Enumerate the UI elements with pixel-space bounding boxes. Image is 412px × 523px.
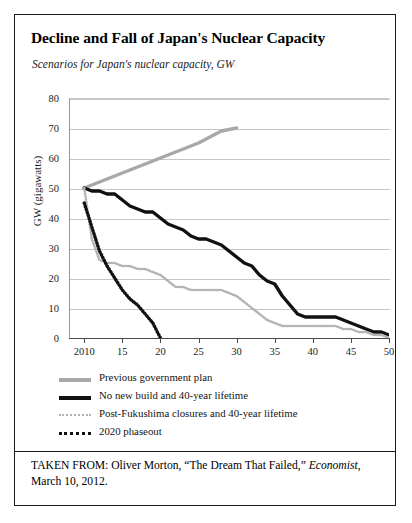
legend-item: Previous government plan [59, 371, 397, 389]
x-axis-tick-label: 35 [269, 346, 280, 357]
legend-swatch-previous-plan [59, 378, 91, 382]
x-axis-tick [122, 338, 123, 343]
x-axis-tick [84, 338, 85, 343]
legend-label: Previous government plan [99, 371, 212, 383]
legend-item: 2020 phaseout [59, 425, 397, 443]
legend-item: No new build and 40-year lifetime [59, 389, 397, 407]
figure-subtitle: Scenarios for Japan's nuclear capacity, … [32, 58, 382, 70]
legend-swatch-2020-phaseout [59, 432, 91, 435]
legend-label: Post-Fukushima closures and 40-year life… [99, 407, 298, 419]
y-axis-tick-label: 80 [15, 93, 59, 104]
legend-label: 2020 phaseout [99, 425, 162, 437]
x-axis-tick-label: 50 [384, 346, 395, 357]
legend-label: No new build and 40-year lifetime [99, 389, 248, 401]
legend-swatch-no-new-build [59, 396, 91, 400]
x-axis-tick-label: 40 [308, 346, 319, 357]
legend-swatch-post-fukushima [59, 414, 91, 416]
x-axis-tick [237, 338, 238, 343]
x-axis-tick [160, 338, 161, 343]
x-axis-tick [351, 338, 352, 343]
legend-item: Post-Fukushima closures and 40-year life… [59, 407, 397, 425]
x-axis-tick-label: 30 [231, 346, 242, 357]
x-axis-tick-labels: 20101520253035404550 [69, 346, 389, 362]
x-axis-tick-label: 25 [193, 346, 204, 357]
series-line [84, 188, 389, 338]
source-divider [15, 451, 395, 452]
y-axis-tick-label: 10 [15, 303, 59, 314]
x-axis-tick [389, 338, 390, 343]
series-line [84, 128, 236, 188]
series-lines [69, 98, 389, 338]
x-axis-tick-label: 2010 [74, 346, 95, 357]
chart-legend: Previous government planNo new build and… [15, 371, 397, 449]
x-axis-tick [275, 338, 276, 343]
figure-title: Decline and Fall of Japan's Nuclear Capa… [31, 29, 381, 47]
source-citation: TAKEN FROM: Oliver Morton, “The Dream Th… [31, 458, 383, 489]
x-axis-tick [313, 338, 314, 343]
x-axis-tick-label: 45 [346, 346, 357, 357]
x-axis-tick-label: 15 [117, 346, 128, 357]
y-axis-tick-label: 20 [15, 273, 59, 284]
figure-panel: Decline and Fall of Japan's Nuclear Capa… [14, 14, 396, 506]
source-publication: Economist [309, 459, 358, 472]
y-axis-tick-label: 0 [15, 333, 59, 344]
x-axis-ticks [69, 338, 389, 346]
source-prefix: TAKEN FROM: Oliver Morton, “The Dream Th… [31, 459, 309, 472]
x-axis-tick-label: 20 [155, 346, 166, 357]
series-line [84, 188, 389, 335]
chart-area: 01020304050607080 GW (gigawatts) 2010152… [15, 85, 397, 370]
y-axis-title: GW (gigawatts) [31, 131, 43, 251]
x-axis-tick [199, 338, 200, 343]
